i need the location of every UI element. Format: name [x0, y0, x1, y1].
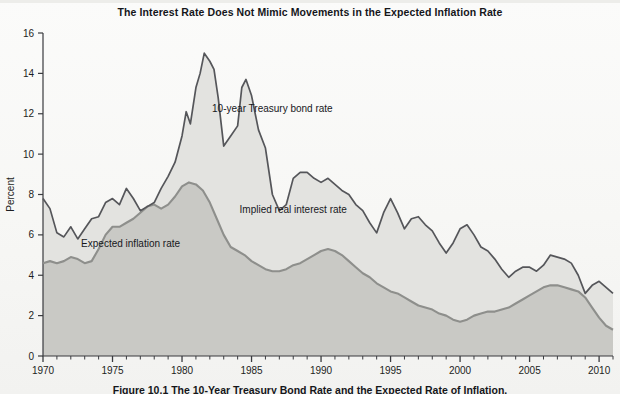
y-axis-title: Percent [5, 177, 16, 212]
x-axis-tick-label: 2005 [518, 365, 541, 376]
y-axis-tick-label: 10 [23, 149, 35, 160]
expected-inflation-annotation: Expected inflation rate [81, 238, 180, 249]
figure-caption-area: Figure 10.1 The 10-Year Treasury Bond Ra… [0, 376, 620, 394]
x-axis-tick-label: 1985 [240, 365, 263, 376]
x-axis-tick-label: 1970 [32, 365, 55, 376]
x-axis-tick-label: 1990 [310, 365, 333, 376]
y-axis-ticks: 0246810121416 [23, 28, 43, 362]
y-axis-tick-label: 4 [28, 270, 34, 281]
y-axis-tick-label: 2 [28, 310, 34, 321]
y-axis-tick-label: 8 [28, 189, 34, 200]
y-axis-tick-label: 0 [28, 351, 34, 362]
y-axis-tick-label: 16 [23, 28, 35, 39]
x-axis-tick-label: 1975 [101, 365, 124, 376]
x-axis-tick-label: 1995 [379, 365, 402, 376]
y-axis-tick-label: 12 [23, 108, 35, 119]
y-axis-tick-label: 6 [28, 229, 34, 240]
y-axis-tick-label: 14 [23, 68, 35, 79]
figure-caption: Figure 10.1 The 10-Year Treasury Bond Ra… [0, 384, 620, 394]
x-axis-ticks: 197019751980198519901995200020052010 [32, 356, 613, 376]
chart-figure: 0246810121416 19701975198019851990199520… [0, 0, 620, 394]
x-axis-tick-label: 2000 [449, 365, 472, 376]
x-axis-tick-label: 2010 [588, 365, 611, 376]
chart-canvas: 0246810121416 19701975198019851990199520… [0, 0, 620, 394]
bond-rate-annotation: 10-year Treasury bond rate [212, 103, 333, 114]
x-axis-tick-label: 1980 [171, 365, 194, 376]
implied-real-rate-annotation: Implied real interest rate [240, 204, 348, 215]
